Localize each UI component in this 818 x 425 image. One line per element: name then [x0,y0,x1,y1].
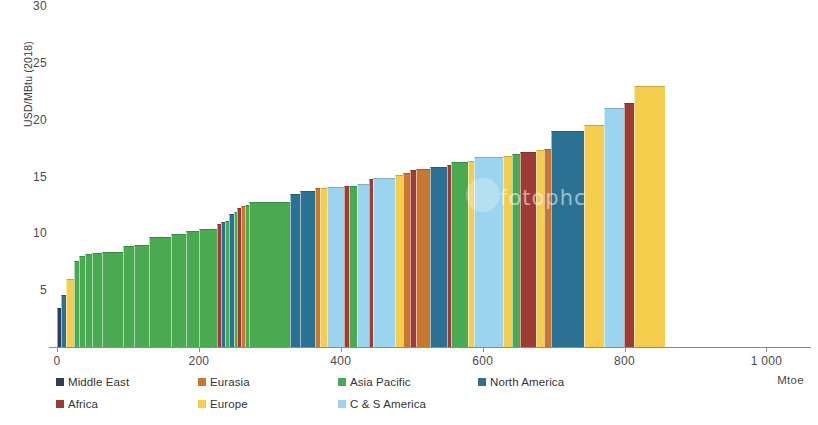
y-axis-tick-label: 10 [9,226,47,240]
y-axis-tick-label: 30 [9,0,47,13]
plot-area [57,6,809,347]
legend-item-label: Africa [68,398,98,410]
x-axis-tick-mark [199,348,200,352]
x-axis-tick-mark [57,348,58,352]
legend-swatch-icon [478,378,486,386]
legend-item-label: Eurasia [210,376,250,388]
legend-item: Europe [198,398,248,410]
legend-swatch-icon [56,400,64,408]
x-axis-tick-label: 400 [330,354,351,368]
y-axis-tick-label: 20 [9,113,47,127]
bar [199,229,217,347]
legend-item: Eurasia [198,376,250,388]
bar [357,184,369,347]
x-axis-tick-mark [766,348,767,352]
y-axis-tick-label: 5 [9,283,47,297]
legend-item: Middle East [56,376,129,388]
bar [249,202,290,347]
legend-item-label: C & S America [350,398,426,410]
bar [536,150,545,347]
bar [584,125,604,347]
x-axis-tick-label: 0 [54,354,61,368]
legend-item: Africa [56,398,98,410]
x-axis-tick-label: 1 000 [751,354,783,368]
legend-item: Asia Pacific [338,376,411,388]
bar [349,186,358,347]
bar [300,191,314,347]
legend-item: C & S America [338,398,426,410]
bar [290,194,300,347]
legend-item-label: Europe [210,398,248,410]
x-axis-tick-label: 600 [472,354,493,368]
legend-item-label: Asia Pacific [350,376,411,388]
bar [634,86,665,347]
bar [403,173,410,347]
legend-item: North America [478,376,564,388]
bar [171,234,187,347]
bar [92,253,102,347]
bar [373,178,394,347]
legend: Middle EastEurasiaAsia PacificNorth Amer… [56,376,756,422]
legend-swatch-icon [198,378,206,386]
x-axis-tick-mark [341,348,342,352]
x-axis-tick-label: 800 [614,354,635,368]
bar [520,152,536,348]
bar [430,167,447,347]
bar [134,245,150,347]
bar [624,103,634,347]
bar [512,154,520,347]
legend-item-label: Middle East [68,376,129,388]
bar [544,149,551,347]
x-axis-tick-mark [625,348,626,352]
bar [604,108,624,347]
bar [474,157,502,347]
legend-swatch-icon [198,400,206,408]
bar [327,187,344,347]
bar [66,279,75,347]
bar [85,254,92,347]
bar [102,252,123,347]
legend-swatch-icon [338,378,346,386]
bar [551,131,584,347]
legend-swatch-icon [56,378,64,386]
bar [395,175,404,347]
bar [416,169,430,347]
y-axis-title: USD/MBtu (2018) [22,9,34,159]
bar [186,231,199,347]
x-axis-tick-mark [483,348,484,352]
x-axis: 02004006008001 000 [0,348,818,374]
bar [149,237,170,347]
y-axis-tick-label: 15 [9,170,47,184]
x-axis-tick-label: 200 [188,354,209,368]
bar [123,246,134,347]
x-axis-unit-label: Mtoe [777,374,804,386]
legend-swatch-icon [338,400,346,408]
legend-item-label: North America [490,376,564,388]
bar [451,162,468,347]
bar [503,156,513,347]
y-axis-tick-label: 25 [9,56,47,70]
chart-root: USD/MBtu (2018) 51015202530 fotophc 0200… [0,0,818,425]
